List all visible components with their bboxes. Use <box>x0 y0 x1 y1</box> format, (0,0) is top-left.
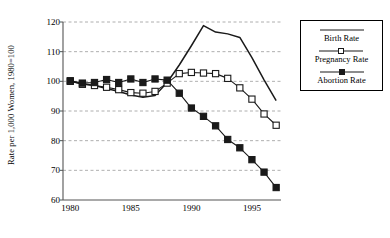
legend-label: Pregnancy Rate <box>315 55 369 64</box>
data-point-marker <box>249 96 255 102</box>
y-axis-tick-label: 120 <box>30 17 60 27</box>
data-point-marker <box>91 79 97 85</box>
data-point-marker <box>152 88 158 94</box>
series-line <box>70 26 276 101</box>
legend-label: Abortion Rate <box>317 76 365 85</box>
data-point-marker <box>261 111 267 117</box>
data-point-marker <box>200 70 206 76</box>
data-point-marker <box>116 79 122 85</box>
data-point-marker <box>116 87 122 93</box>
data-point-marker <box>237 85 243 91</box>
legend-swatch <box>319 46 363 55</box>
x-axis-tick-labels: 1980198519901995 <box>0 203 390 223</box>
data-series-layer <box>67 26 279 191</box>
data-point-marker <box>128 76 134 82</box>
y-axis-tick-label: 100 <box>30 76 60 86</box>
y-axis-title: Rate per 1,000 Women, 1980=100 <box>0 0 24 210</box>
data-point-marker <box>225 75 231 81</box>
data-point-marker <box>213 71 219 77</box>
y-axis-title-text: Rate per 1,000 Women, 1980=100 <box>6 45 16 165</box>
series-birth-rate <box>70 26 276 101</box>
data-point-marker <box>128 90 134 96</box>
data-point-marker <box>79 80 85 86</box>
legend-swatch <box>320 25 364 34</box>
data-point-marker <box>176 90 182 96</box>
data-point-marker <box>140 90 146 96</box>
data-point-marker <box>164 77 170 83</box>
legend-label: Birth Rate <box>324 34 359 43</box>
data-point-marker <box>273 122 279 128</box>
x-axis-tick-label: 1980 <box>47 203 93 213</box>
data-point-marker <box>200 113 206 119</box>
legend-item-pregnancy-rate[interactable]: Pregnancy Rate <box>315 46 369 64</box>
x-axis-tick-label: 1985 <box>108 203 154 213</box>
data-point-marker <box>104 84 110 90</box>
data-point-marker <box>225 136 231 142</box>
y-axis-tick-label: 110 <box>30 47 60 57</box>
chart-container: Rate per 1,000 Women, 1980=100 607080901… <box>0 0 390 238</box>
legend-item-birth-rate[interactable]: Birth Rate <box>320 25 364 43</box>
data-point-marker <box>249 157 255 163</box>
open-square-icon <box>338 48 344 54</box>
data-point-marker <box>152 76 158 82</box>
data-point-marker <box>261 169 267 175</box>
data-point-marker <box>213 123 219 129</box>
filled-square-icon <box>339 69 345 75</box>
y-axis-tick-label: 90 <box>30 106 60 116</box>
series-pregnancy-rate <box>67 69 279 128</box>
legend-item-abortion-rate[interactable]: Abortion Rate <box>317 67 365 85</box>
data-point-marker <box>176 71 182 77</box>
series-abortion-rate <box>67 76 279 191</box>
y-axis-tick-label: 80 <box>30 136 60 146</box>
data-point-marker <box>104 76 110 82</box>
series-line <box>70 79 276 188</box>
y-axis-tick-label: 70 <box>30 165 60 175</box>
data-point-marker <box>188 105 194 111</box>
legend-swatch <box>320 67 364 76</box>
data-point-marker <box>140 79 146 85</box>
x-axis-tick-label: 1990 <box>168 203 214 213</box>
data-point-marker <box>273 184 279 190</box>
x-axis-tick-label: 1995 <box>229 203 275 213</box>
data-point-marker <box>67 78 73 84</box>
legend: Birth RatePregnancy RateAbortion Rate <box>300 20 383 91</box>
data-point-marker <box>188 69 194 75</box>
data-point-marker <box>237 145 243 151</box>
